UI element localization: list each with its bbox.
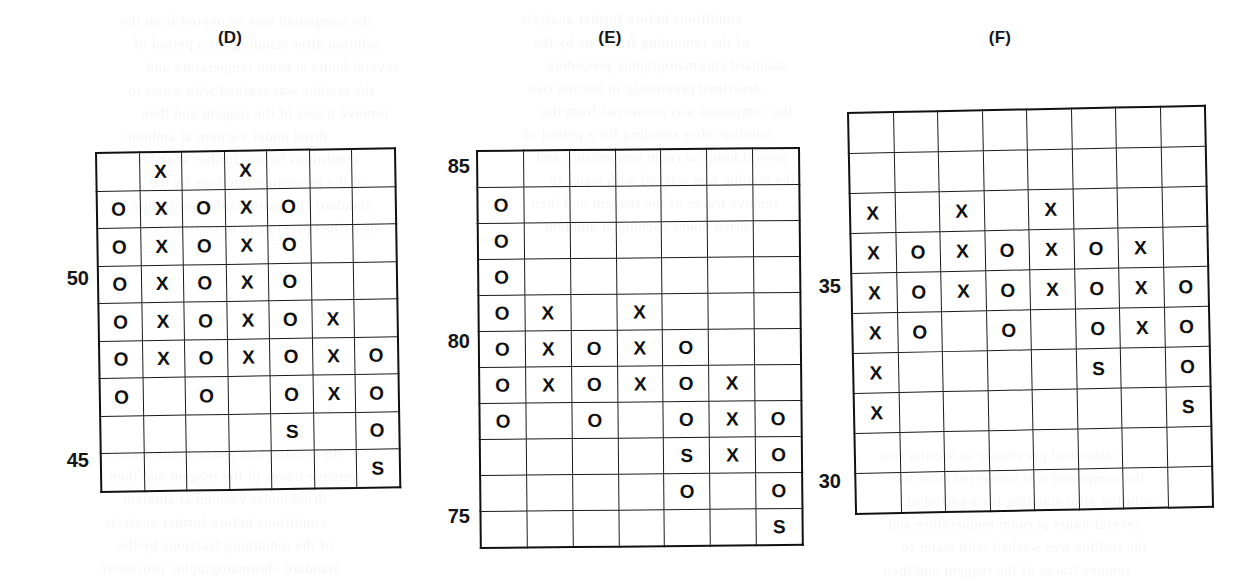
grid-cell-o: O [479,331,526,367]
grid-cell-empty [1031,349,1076,390]
grid-cell-empty [618,402,664,438]
grid-cell-empty [310,187,353,225]
grid-cell-empty [1034,469,1079,510]
grid-cell-empty [855,473,901,514]
grid-row [855,466,1213,514]
panel-e-label: (E) [420,28,800,48]
grid-cell-x: X [852,313,898,354]
grid-cell-empty [1032,389,1077,430]
grid-cell-empty [1160,106,1206,147]
grid-cell-x: X [617,366,663,402]
grid-cell-empty [1161,146,1207,187]
grid-cell-x: X [525,367,571,403]
grid-cell-o: O [97,228,141,266]
grid-row: OXOXO [98,261,397,303]
grid-cell-empty [1167,466,1213,507]
grid-cell-o: O [99,340,143,378]
grid-cell-o: O [183,264,226,302]
grid-cell-x: X [311,299,354,337]
grid-cell-empty [526,403,572,439]
grid-cell-empty [570,222,616,258]
grid-cell-empty [526,439,572,475]
grid-cell-o: O [984,230,1029,271]
panel-f-grid-wrap: XXXXOXOXOXXOXOXOXOXOOOXOXSOXS [847,105,1214,515]
grid-cell-empty [1071,108,1116,149]
grid-row: O [478,256,800,295]
grid-cell-x: X [312,337,355,375]
grid-cell-empty [526,475,572,511]
grid-cell-empty [987,350,1032,391]
grid-row: OO [480,472,802,511]
grid-cell-empty [893,111,938,152]
panel-d-ytick-45: 45 [45,449,89,472]
grid-cell-o: O [183,226,226,264]
grid-cell-empty [313,412,356,450]
panel-d-grid-wrap: XXOXOXOOXOXOOXOXOOXOXOXOXOXOXOOOOXOSOS [95,147,401,492]
grid-cell-empty [662,221,708,257]
grid-cell-o: O [895,232,940,273]
grid-cell-empty [1027,149,1072,190]
panel-f: (F) 35 30 XXXXOXOXOXXOXOXOXOXOOOXOXSOXS [790,28,1210,528]
grid-cell-empty [1123,467,1168,508]
grid-cell-empty [1166,426,1212,467]
grid-cell-empty [894,152,939,193]
grid-cell-empty [570,186,616,222]
grid-cell-empty [942,351,987,392]
grid-cell-empty [615,149,661,186]
grid-cell-empty [1121,387,1166,428]
grid-cell-empty [988,390,1033,431]
grid-cell-empty [572,438,618,474]
grid-cell-o: O [182,189,225,227]
grid-cell-o: O [1074,268,1119,309]
grid-cell-o: O [897,312,942,353]
grid-cell-o: O [98,265,142,303]
grid-cell-o: O [98,303,142,341]
grid-cell-o: O [664,473,710,509]
grid-cell-empty [895,192,940,233]
grid-cell-x: X [227,338,270,376]
grid-cell-empty [662,257,708,293]
grid-cell-x: X [939,191,984,232]
grid-cell-empty [266,150,309,189]
grid-cell-empty [942,311,987,352]
grid-cell-s: S [1076,348,1121,389]
panel-f-grid: XXXXOXOXOXXOXOXOXOXOOOXOXSOXS [847,105,1214,515]
grid-cell-x: X [226,301,269,339]
grid-cell-empty [527,511,573,548]
grid-cell-x: X [941,271,986,312]
grid-cell-empty [707,148,753,185]
grid-cell-empty [945,471,990,512]
grid-cell-x: X [709,365,755,401]
grid-cell-x: X [617,330,663,366]
grid-cell-empty [708,257,754,293]
grid-cell-o: O [355,374,399,412]
grid-cell-x: X [1119,307,1164,348]
grid-cell-o: O [354,336,398,374]
grid-cell-empty [982,109,1027,150]
grid-cell-empty [618,438,664,474]
grid-cell-empty [988,430,1033,471]
grid-cell-o: O [268,225,311,263]
grid-cell-o: O [356,411,400,449]
panel-e-grid: OOOOXXOXOXOOXOXOXOOOXOSXOOOS [476,147,804,549]
grid-cell-empty [943,391,988,432]
grid-cell-o: O [269,338,312,376]
grid-row: OXOXOX [479,364,801,403]
grid-cell-empty [309,149,352,188]
grid-cell-empty [1033,429,1078,470]
grid-cell-empty [143,377,186,415]
grid-cell-empty [573,510,619,547]
grid-cell-o: O [663,329,709,365]
grid-cell-o: O [896,272,941,313]
grid-cell-x: X [1029,229,1074,270]
panel-e-grid-wrap: OOOOXXOXOXOOXOXOXOOOXOSXOOOS [476,147,804,549]
panel-e-ytick-75: 75 [426,505,470,528]
grid-cell-empty [938,110,983,151]
grid-cell-empty [938,151,983,192]
grid-cell-empty [523,150,569,187]
grid-cell-empty [480,511,527,548]
grid-row: OXOXO [97,186,396,228]
grid-cell-empty [618,474,664,510]
grid-cell-x: X [616,294,662,330]
grid-row: XX [96,148,395,191]
